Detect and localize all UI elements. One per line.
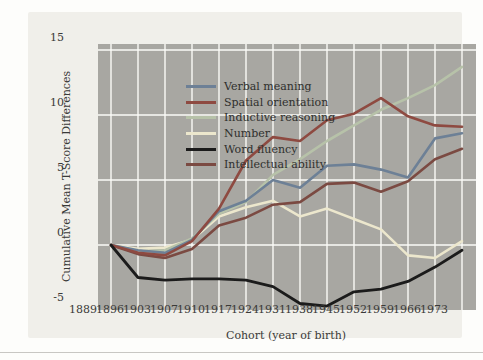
y-axis-title: Cumulative Mean T-Score Differences: [60, 47, 73, 307]
y-tick-label: 5: [42, 162, 64, 174]
plot-area: Verbal meaningSpatial orientationInducti…: [98, 44, 476, 310]
legend-label: Inductive reasoning: [224, 111, 335, 124]
legend-item-word-fluency: Word fluency: [186, 141, 335, 157]
y-tick-label: 0: [42, 227, 64, 239]
chart-panel: Cumulative Mean T-Score Differences Coho…: [28, 12, 462, 338]
legend-label: Spatial orientation: [224, 96, 328, 109]
legend: Verbal meaningSpatial orientationInducti…: [186, 79, 335, 173]
y-tick-label: -5: [42, 292, 64, 304]
legend-swatch: [186, 132, 216, 135]
legend-swatch: [186, 85, 216, 88]
page-bottom-rule: [0, 352, 483, 353]
legend-swatch: [186, 148, 216, 151]
legend-label: Word fluency: [224, 143, 297, 156]
figure-page: Cumulative Mean T-Score Differences Coho…: [0, 0, 483, 360]
legend-swatch: [186, 101, 216, 104]
legend-item-inductive-reasoning: Inductive reasoning: [186, 110, 335, 126]
legend-item-spatial-orientation: Spatial orientation: [186, 95, 335, 111]
x-axis-title: Cohort (year of birth): [136, 329, 436, 342]
legend-label: Verbal meaning: [224, 80, 312, 93]
x-tick-label: 1973: [417, 303, 451, 316]
legend-label: Intellectual ability: [224, 158, 326, 171]
legend-swatch: [186, 116, 216, 119]
legend-item-intellectual-ability: Intellectual ability: [186, 157, 335, 173]
y-tick-label: 15: [42, 32, 64, 44]
legend-item-verbal-meaning: Verbal meaning: [186, 79, 335, 95]
y-tick-label: 10: [42, 97, 64, 109]
legend-label: Number: [224, 127, 270, 140]
legend-item-number: Number: [186, 126, 335, 142]
legend-swatch: [186, 163, 216, 166]
